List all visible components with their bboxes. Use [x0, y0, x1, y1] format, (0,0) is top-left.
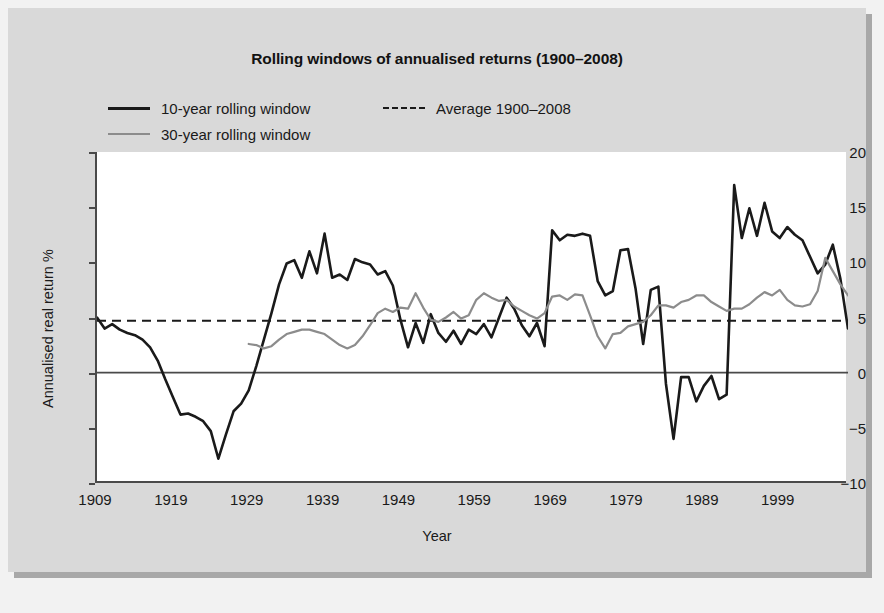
x-tick-label: 1959	[458, 491, 491, 508]
legend-entry-30-year: 30-year rolling window	[108, 122, 310, 146]
legend-swatch-solid-gray-icon	[108, 133, 150, 135]
x-tick-label: 1909	[78, 491, 111, 508]
x-tick-label: 1929	[230, 491, 263, 508]
legend-label-average: Average 1900–2008	[436, 100, 571, 117]
x-axis-title: Year	[8, 528, 866, 544]
plot-area	[95, 152, 846, 483]
legend-entry-average: Average 1900–2008	[383, 96, 571, 120]
legend-label-10-year: 10-year rolling window	[161, 100, 310, 117]
legend-swatch-dashed-icon	[383, 107, 425, 109]
legend-label-30-year: 30-year rolling window	[161, 126, 310, 143]
x-tick-label: 1939	[306, 491, 339, 508]
figure-root: Rolling windows of annualised returns (1…	[0, 0, 884, 613]
x-tick-label: 1999	[761, 491, 794, 508]
x-tick-label: 1949	[382, 491, 415, 508]
x-tick-label: 1979	[609, 491, 642, 508]
x-tick-label: 1919	[154, 491, 187, 508]
plot-svg	[97, 152, 848, 483]
chart-legend: 10-year rolling window 30-year rolling w…	[108, 96, 728, 148]
legend-swatch-solid-black-icon	[108, 107, 150, 110]
y-tick-mark	[89, 483, 95, 485]
x-tick-label: 1969	[533, 491, 566, 508]
y-axis-title: Annualised real return %	[40, 249, 56, 408]
x-tick-label: 1989	[685, 491, 718, 508]
series-line	[97, 185, 848, 459]
legend-entry-10-year: 10-year rolling window	[108, 96, 310, 120]
chart-title: Rolling windows of annualised returns (1…	[8, 50, 866, 68]
chart-panel: Rolling windows of annualised returns (1…	[8, 8, 866, 572]
